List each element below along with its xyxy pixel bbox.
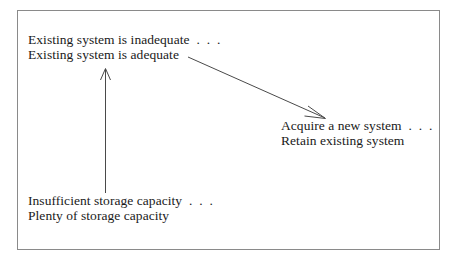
node-storage-capacity: Insufficient storage capacity . . . Plen…	[28, 194, 213, 223]
node-acquire-system-line-2: Retain existing system	[281, 134, 432, 149]
node-existing-system-line-1: Existing system is inadequate . . .	[28, 33, 220, 48]
node-storage-capacity-line-2: Plenty of storage capacity	[28, 209, 213, 224]
node-acquire-system: Acquire a new system . . . Retain existi…	[281, 119, 432, 148]
node-storage-capacity-line-1: Insufficient storage capacity . . .	[28, 194, 213, 209]
node-existing-system: Existing system is inadequate . . . Exis…	[28, 33, 220, 62]
figure-root: Existing system is inadequate . . . Exis…	[0, 0, 457, 266]
node-existing-system-line-2: Existing system is adequate	[28, 48, 220, 63]
node-acquire-system-line-1: Acquire a new system . . .	[281, 119, 432, 134]
